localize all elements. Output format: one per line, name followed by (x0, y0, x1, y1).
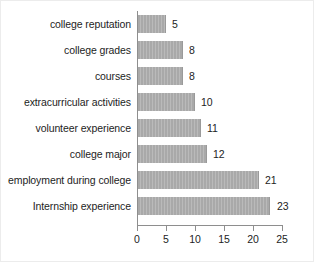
x-axis-tick-label: 10 (189, 234, 201, 245)
bar-row: volunteer experience 11 (1, 119, 313, 137)
bar-row: college major 12 (1, 145, 313, 163)
bar-row: Internship experience 23 (1, 197, 313, 215)
bar-value-label: 8 (189, 71, 195, 82)
category-label: college grades (64, 45, 131, 56)
bar-row: extracurricular activities 10 (1, 93, 313, 111)
x-axis-tick-label: 20 (247, 234, 259, 245)
category-label: college major (70, 149, 131, 160)
bar-row: college grades 8 (1, 41, 313, 59)
bar-value-label: 23 (277, 201, 289, 212)
x-axis-tick-label: 15 (218, 234, 230, 245)
bar-row: courses 8 (1, 67, 313, 85)
bar-value-label: 12 (213, 149, 225, 160)
x-axis-tick-label: 5 (163, 234, 169, 245)
bar-value-label: 11 (207, 123, 218, 134)
bar-value-label: 5 (172, 19, 178, 30)
x-axis-tick (137, 226, 138, 231)
bar (137, 67, 183, 85)
x-axis-tick (224, 226, 225, 231)
bar-value-label: 21 (265, 175, 277, 186)
category-label: Internship experience (33, 201, 131, 212)
bar-value-label: 8 (189, 45, 195, 56)
category-label: courses (95, 71, 131, 82)
x-axis-line (137, 225, 283, 226)
x-axis-tick (166, 226, 167, 231)
bar (137, 119, 201, 137)
category-label: extracurricular activities (24, 97, 131, 108)
plot-area: college reputation 5 college grades 8 co… (1, 1, 313, 261)
y-axis-line (137, 11, 138, 225)
category-label: employment during college (8, 175, 131, 186)
category-label: college reputation (50, 19, 131, 30)
x-axis-tick-label: 0 (134, 234, 140, 245)
x-axis-tick (195, 226, 196, 231)
x-axis-tick (253, 226, 254, 231)
x-axis-tick-label: 25 (276, 234, 288, 245)
bar (137, 197, 270, 215)
bar-chart-figure: college reputation 5 college grades 8 co… (0, 0, 314, 262)
category-label: volunteer experience (36, 123, 131, 134)
bar-row: college reputation 5 (1, 15, 313, 33)
bar (137, 145, 207, 163)
bar-value-label: 10 (201, 97, 213, 108)
bar (137, 15, 166, 33)
bar (137, 171, 259, 189)
x-axis-tick (282, 226, 283, 231)
bar (137, 41, 183, 59)
bar-row: employment during college 21 (1, 171, 313, 189)
bar (137, 93, 195, 111)
